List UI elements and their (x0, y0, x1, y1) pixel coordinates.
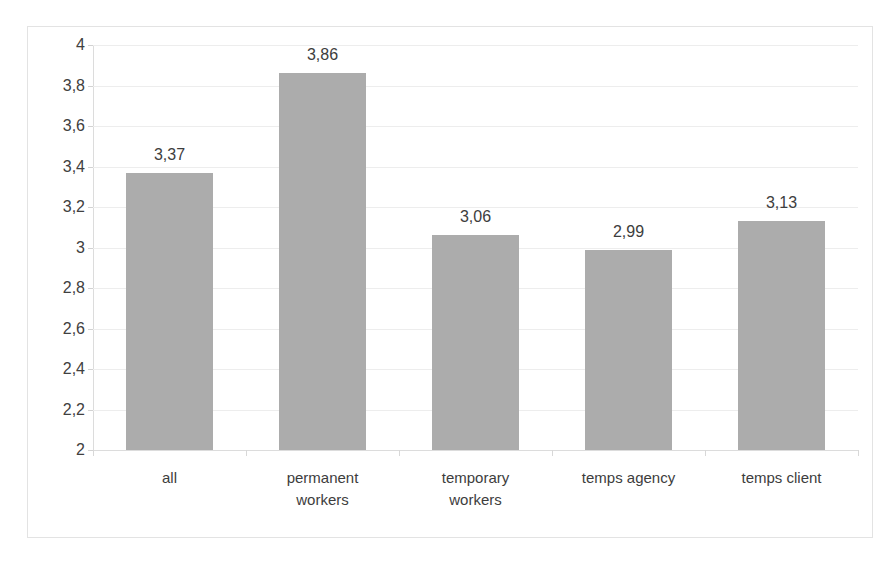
plot-area: 3,373,863,062,993,13 (93, 45, 858, 450)
x-axis-tick-mark (399, 450, 400, 456)
bar[interactable] (738, 221, 825, 450)
bar[interactable] (126, 173, 213, 450)
bar[interactable] (585, 250, 672, 450)
x-axis-category-label: temporaryworkers (399, 467, 552, 511)
x-axis-category-label: temps agency (552, 467, 705, 489)
y-axis-tick-mark (88, 126, 93, 127)
x-axis-category-label: all (93, 467, 246, 489)
gridline (93, 126, 858, 127)
y-axis-tick-label: 4 (33, 37, 85, 53)
y-axis-tick-label: 3,4 (33, 159, 85, 175)
y-axis-tick-mark (88, 329, 93, 330)
x-axis-tick-mark (93, 450, 94, 456)
y-axis-tick-label: 3,8 (33, 78, 85, 94)
bar-value-label: 2,99 (565, 224, 692, 240)
bar-value-label: 3,13 (718, 195, 845, 211)
y-axis-tick-label: 2,8 (33, 280, 85, 296)
y-axis-tick-mark (88, 248, 93, 249)
x-axis-category-label-line: workers (246, 489, 399, 511)
x-axis-category-label-line: temporary (399, 467, 552, 489)
x-axis-category-label: temps client (705, 467, 858, 489)
x-axis-category-label: permanentworkers (246, 467, 399, 511)
y-axis-tick-label: 2,6 (33, 321, 85, 337)
x-axis-tick-mark (246, 450, 247, 456)
gridline (93, 167, 858, 168)
y-axis-tick-label: 2 (33, 442, 85, 458)
y-axis-tick-mark (88, 207, 93, 208)
gridline (93, 450, 858, 451)
bar[interactable] (432, 235, 519, 450)
y-axis-tick-label: 3 (33, 240, 85, 256)
y-axis-tick-mark (88, 45, 93, 46)
gridline (93, 86, 858, 87)
y-axis-tick-label: 3,2 (33, 199, 85, 215)
x-axis-category-label-line: permanent (246, 467, 399, 489)
y-axis-tick-mark (88, 410, 93, 411)
y-axis-tick-mark (88, 167, 93, 168)
bar-value-label: 3,37 (106, 147, 233, 163)
y-axis-tick-label: 2,2 (33, 402, 85, 418)
x-axis-tick-mark (552, 450, 553, 456)
x-axis-category-label-line: temps agency (552, 467, 705, 489)
x-axis-category-label-line: all (93, 467, 246, 489)
chart-frame: 43,83,63,43,232,82,62,42,22 3,373,863,06… (27, 26, 873, 538)
y-axis-tick-label: 2,4 (33, 361, 85, 377)
bar-value-label: 3,06 (412, 209, 539, 225)
x-axis-tick-mark (858, 450, 859, 456)
x-axis-category-label-line: temps client (705, 467, 858, 489)
y-axis-tick-mark (88, 369, 93, 370)
y-axis-tick-mark (88, 288, 93, 289)
y-axis-tick-mark (88, 86, 93, 87)
bar[interactable] (279, 73, 366, 450)
x-axis-tick-mark (705, 450, 706, 456)
y-axis-tick-labels: 43,83,63,43,232,82,62,42,22 (28, 27, 85, 539)
x-axis-category-label-line: workers (399, 489, 552, 511)
gridline (93, 45, 858, 46)
y-axis-tick-label: 3,6 (33, 118, 85, 134)
bar-value-label: 3,86 (259, 47, 386, 63)
